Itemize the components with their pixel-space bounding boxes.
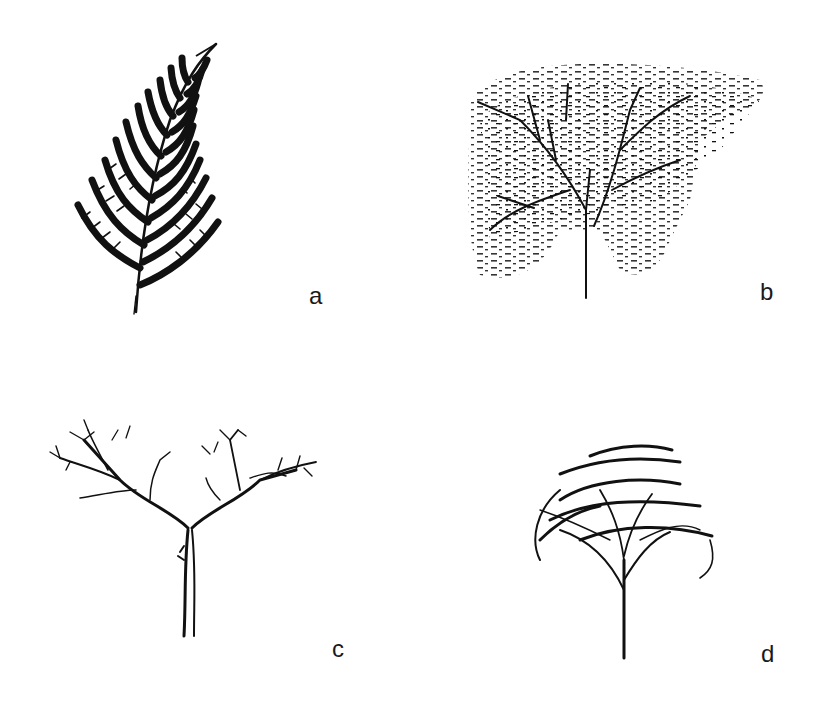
panel-d: d: [416, 354, 832, 708]
fern-illustration: [0, 0, 416, 354]
panel-c: c: [0, 354, 416, 708]
panel-label-d: d: [761, 642, 774, 666]
panel-b: b: [416, 0, 832, 354]
panel-a: a: [0, 0, 416, 354]
panel-label-c: c: [332, 637, 344, 661]
y-branch-tree-illustration: [0, 354, 416, 708]
panel-label-b: b: [760, 280, 773, 304]
panel-label-a: a: [309, 284, 322, 308]
